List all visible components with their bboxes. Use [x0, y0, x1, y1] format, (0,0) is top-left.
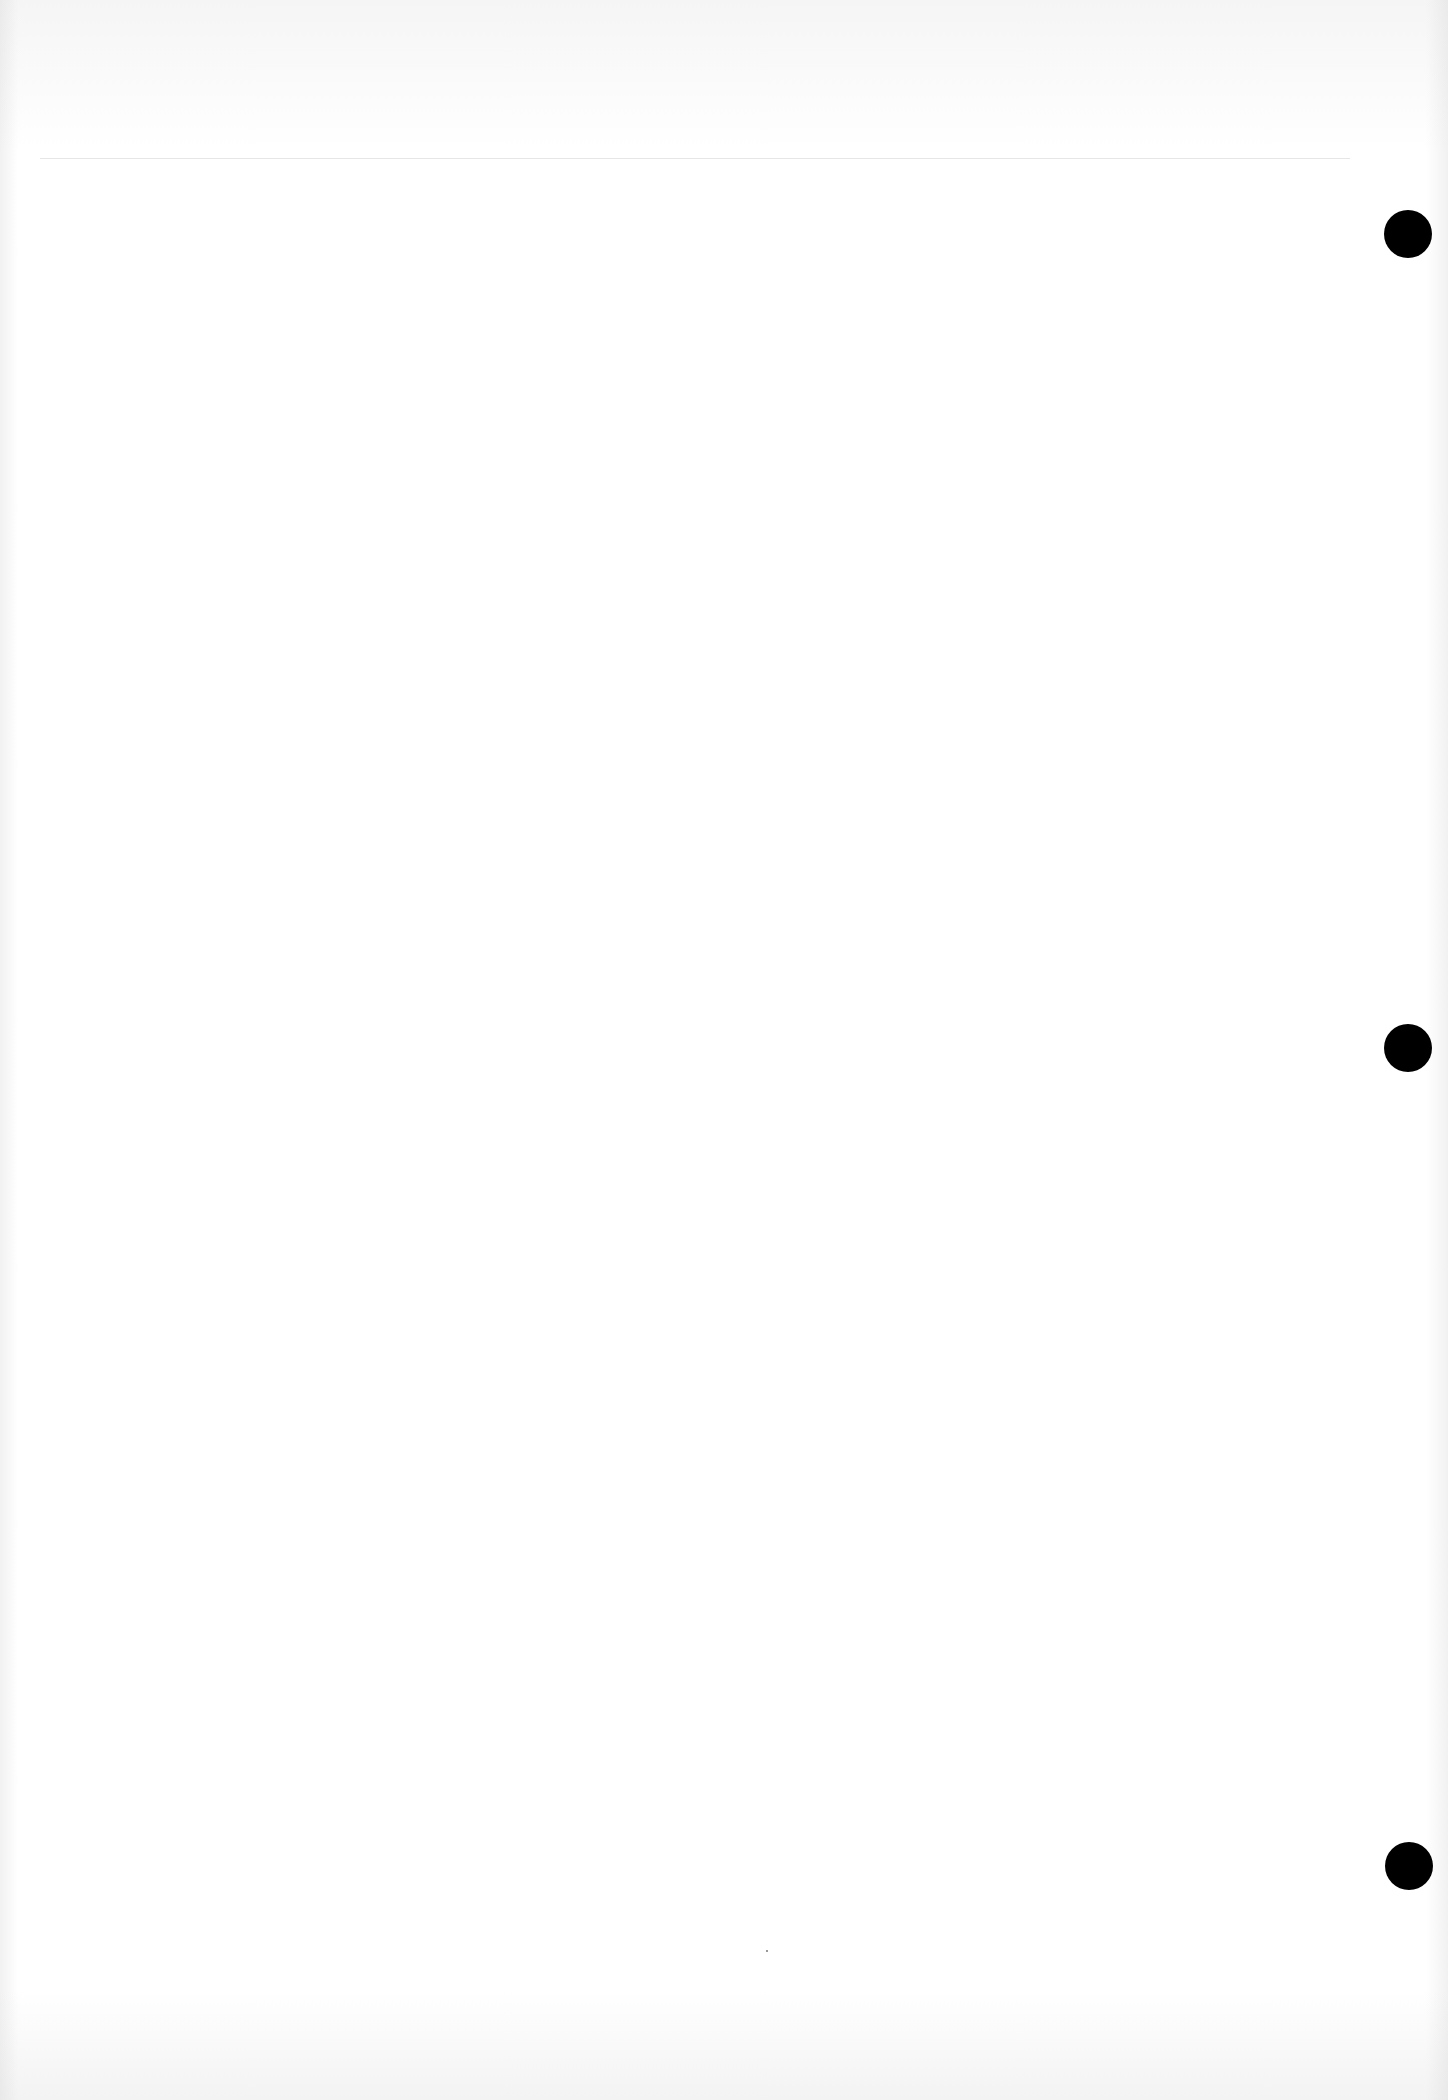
punch-hole-middle	[1384, 1024, 1432, 1072]
punch-hole-top	[1384, 210, 1432, 258]
faint-header-rule	[40, 158, 1350, 159]
punch-hole-bottom	[1385, 1842, 1433, 1890]
blank-document-page	[0, 0, 1448, 2100]
scan-speck	[766, 1950, 768, 1952]
